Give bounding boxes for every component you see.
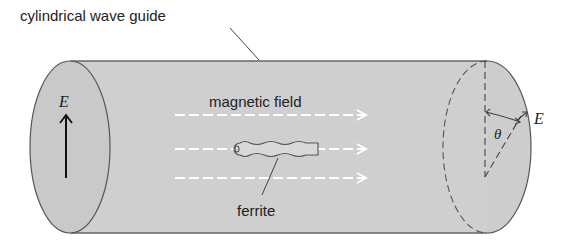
waveguide-diagram: E magnetic field ferrite cylindrical wav… — [0, 0, 572, 247]
right-e-label: E — [533, 110, 544, 127]
left-end-face — [30, 61, 110, 233]
ferrite-label: ferrite — [237, 202, 275, 219]
title-leader — [230, 28, 259, 60]
left-e-label: E — [58, 93, 69, 110]
ferrite-rod — [234, 142, 318, 157]
magnetic-field-label: magnetic field — [209, 93, 302, 110]
title-label: cylindrical wave guide — [20, 7, 166, 24]
theta-label: θ — [494, 126, 502, 142]
